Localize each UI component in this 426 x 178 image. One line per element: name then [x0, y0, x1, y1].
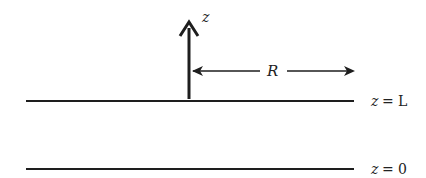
- svg-text:0: 0: [398, 161, 407, 177]
- svg-text:z: z: [370, 93, 379, 109]
- svg-text:z: z: [370, 161, 379, 177]
- z-axis-arrow: [180, 22, 198, 99]
- svg-text:L: L: [398, 93, 407, 109]
- plane-z-0-label: z = 0: [370, 161, 407, 177]
- plane-z-L-label: z = L: [370, 93, 407, 109]
- r-distance-label: R: [266, 62, 278, 80]
- svg-text:=: =: [382, 93, 394, 109]
- parallel-plates-diagram: z R z = L z = 0: [0, 0, 426, 178]
- z-axis-label: z: [201, 9, 210, 25]
- svg-text:=: =: [382, 161, 394, 177]
